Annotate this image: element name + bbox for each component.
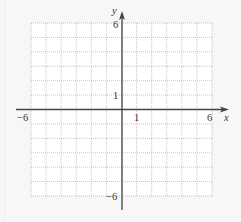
x-axis-label: x — [223, 112, 229, 123]
y-tick-label-1: 1 — [113, 90, 118, 101]
x-tick-label-6: 6 — [207, 112, 212, 123]
coordinate-plane: y 6 1 −6 −6 1 6 x — [0, 0, 241, 222]
y-axis-label: y — [111, 5, 117, 16]
y-tick-label-neg6: −6 — [106, 191, 117, 202]
x-tick-label-1: 1 — [134, 112, 139, 123]
y-tick-label-6: 6 — [113, 19, 118, 30]
x-tick-label-neg6: −6 — [17, 112, 28, 123]
